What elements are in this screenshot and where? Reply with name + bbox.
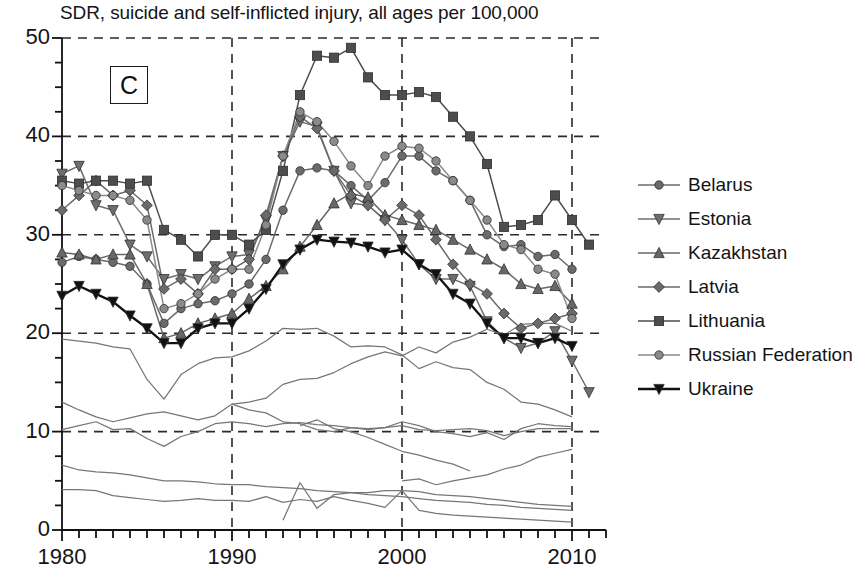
circle-marker-icon [636,176,682,194]
legend-label: Lithuania [682,310,765,332]
legend-item-kazakhstan[interactable]: Kazakhstan [636,236,866,270]
legend-item-latvia[interactable]: Latvia [636,270,866,304]
y-tick-label: 0 [6,516,50,542]
panel-label-text: C [120,73,138,98]
legend-label: Russian Federation [682,344,853,366]
y-tick-label: 40 [6,122,50,148]
legend-label: Latvia [682,276,739,298]
y-tick-label: 50 [6,24,50,50]
legend-label: Estonia [682,208,751,230]
y-tick-label: 10 [6,418,50,444]
triangle-down-marker-icon [636,380,682,398]
chart-figure: SDR, suicide and self-inflicted injury, … [0,0,868,583]
legend-label: Belarus [682,174,752,196]
legend-item-estonia[interactable]: Estonia [636,202,866,236]
diamond-marker-icon [636,278,682,296]
series-lines [62,48,589,522]
triangle-down-marker-icon [636,210,682,228]
y-tick-label: 20 [6,319,50,345]
x-tick-label: 2010 [527,544,617,570]
x-tick-label: 1980 [17,544,107,570]
x-tick-label: 2000 [357,544,447,570]
legend-item-belarus[interactable]: Belarus [636,168,866,202]
legend-item-russian-federation[interactable]: Russian Federation [636,338,866,372]
panel-label: C [110,66,148,104]
legend-label: Ukraine [682,378,753,400]
legend-item-lithuania[interactable]: Lithuania [636,304,866,338]
circle-marker-icon [636,346,682,364]
y-tick-label: 30 [6,221,50,247]
legend-item-ukraine[interactable]: Ukraine [636,372,866,406]
x-tick-label: 1990 [187,544,277,570]
square-marker-icon [636,312,682,330]
axis-ticks [52,38,606,541]
legend-label: Kazakhstan [682,242,787,264]
triangle-up-marker-icon [636,244,682,262]
chart-legend: BelarusEstoniaKazakhstanLatviaLithuaniaR… [636,168,866,406]
